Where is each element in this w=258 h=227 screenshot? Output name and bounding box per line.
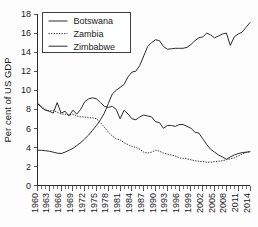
chart-legend: BotswanaZambiaZimbabwe <box>43 13 131 53</box>
y-tick-label: 16 <box>21 28 31 38</box>
x-tick-label: 1978 <box>100 193 110 213</box>
legend-item-label: Zambia <box>74 29 104 39</box>
y-axis-label: Per cent of US GDP <box>2 57 13 142</box>
legend-item-label: Zimbabwe <box>74 42 116 52</box>
x-axis-tick-labels: 1960196319661969197219751978198119841987… <box>30 193 253 213</box>
y-tick-label: 0 <box>26 181 31 191</box>
x-axis-ticks <box>38 186 251 191</box>
y-tick-label: 8 <box>26 104 31 114</box>
x-tick-label: 1972 <box>77 193 87 213</box>
x-tick-label: 1990 <box>148 193 158 213</box>
x-tick-label: 1975 <box>89 193 99 213</box>
x-tick-label: 1960 <box>30 193 40 213</box>
x-tick-label: 2008 <box>218 193 228 213</box>
line-chart: Per cent of US GDP 024681012141618 19601… <box>0 0 258 227</box>
y-tick-label: 6 <box>26 124 31 134</box>
y-tick-label: 10 <box>21 85 31 95</box>
y-axis-ticks: 024681012141618 <box>21 9 38 191</box>
y-tick-label: 18 <box>21 9 31 19</box>
x-tick-label: 1987 <box>136 193 146 213</box>
x-tick-label: 1996 <box>171 193 181 213</box>
legend-item-label: Botswana <box>74 16 114 26</box>
x-tick-label: 2011 <box>230 193 240 212</box>
y-tick-label: 2 <box>26 162 31 172</box>
series-line-zambia <box>38 103 251 163</box>
y-tick-label: 12 <box>21 66 31 76</box>
x-tick-label: 2014 <box>242 193 252 213</box>
x-tick-label: 1993 <box>159 193 169 213</box>
y-axis-label-text: Per cent of US GDP <box>2 57 13 142</box>
x-tick-label: 1999 <box>183 193 193 213</box>
chart-figure: Per cent of US GDP 024681012141618 19601… <box>0 0 258 227</box>
x-tick-label: 1966 <box>53 193 63 213</box>
x-tick-label: 2005 <box>207 193 217 213</box>
y-tick-label: 4 <box>26 143 31 153</box>
x-tick-label: 1981 <box>112 193 122 213</box>
x-tick-label: 1984 <box>124 193 134 213</box>
y-tick-label: 14 <box>21 47 31 57</box>
x-tick-label: 1969 <box>65 193 75 213</box>
x-tick-label: 2002 <box>195 193 205 213</box>
x-tick-label: 1963 <box>41 193 51 213</box>
